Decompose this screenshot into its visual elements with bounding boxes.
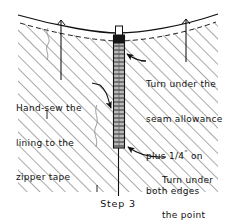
figure-caption: Step 3 [0, 198, 236, 209]
zipper [114, 26, 125, 148]
sewing-diagram [0, 0, 236, 220]
figure-root: Turn under the seam allowance plus 1/4” … [0, 0, 236, 220]
zipper-slider [114, 35, 125, 43]
